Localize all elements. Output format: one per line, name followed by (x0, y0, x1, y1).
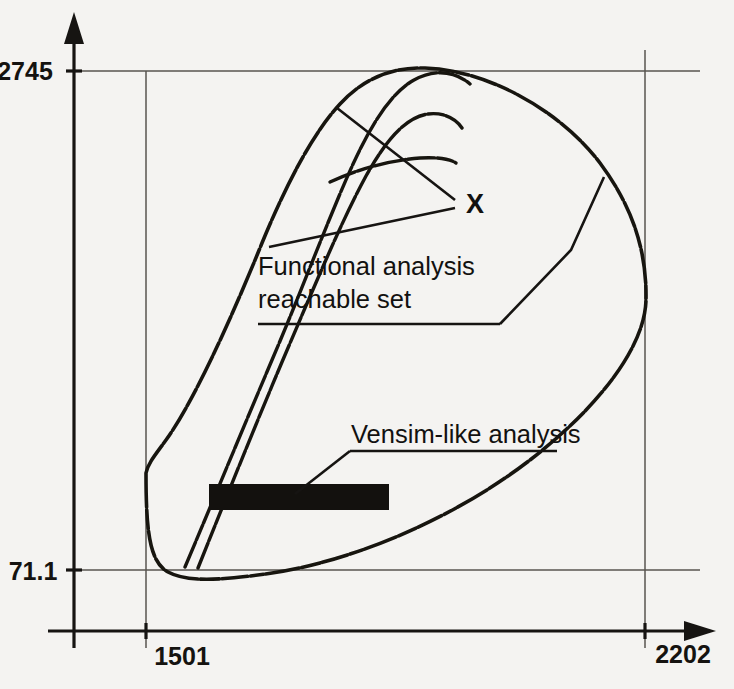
vensim-like-analysis-region (209, 484, 389, 510)
y-tick-label-71: 71.1 (9, 557, 58, 585)
x-leader-line-lower (269, 208, 455, 247)
functional-analysis-leader-line (500, 177, 604, 324)
x-marker-label: X (466, 189, 484, 219)
functional-analysis-label-line1: Functional analysis (258, 252, 475, 280)
y-tick-label-2745: 2745 (0, 57, 53, 85)
functional-analysis-label-line2: reachable set (258, 285, 411, 313)
x-tick-label-1501: 1501 (154, 642, 210, 670)
y-axis-arrowhead (64, 12, 84, 44)
x-axis-arrowhead (684, 621, 716, 641)
x-marker-leader-lines (269, 108, 455, 247)
figure-container: 2745 71.1 1501 2202 X Functional analysi… (0, 0, 734, 689)
x-tick-label-2202: 2202 (655, 640, 711, 668)
functional-analysis-annotation: Functional analysis reachable set (258, 177, 604, 324)
vensim-annotation: Vensim-like analysis (295, 420, 581, 494)
axes (48, 12, 716, 648)
vensim-label: Vensim-like analysis (351, 420, 581, 448)
x-leader-line-upper (337, 108, 455, 200)
gridlines (74, 50, 700, 648)
